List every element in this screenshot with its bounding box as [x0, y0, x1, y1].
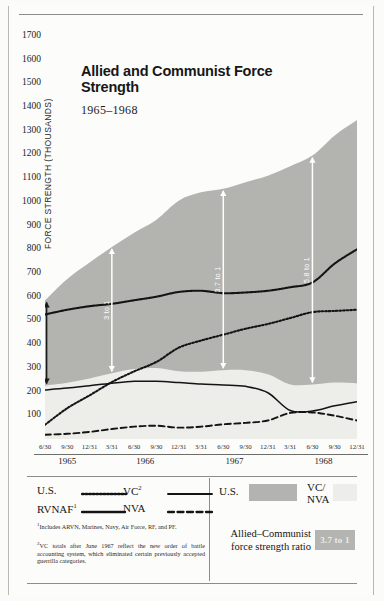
legend-bottom-rule — [27, 583, 357, 584]
y-tick-300: 300 — [11, 362, 41, 372]
key-label-vcnva-2: NVA — [307, 494, 329, 506]
year-label-1967: 1967 — [204, 456, 264, 466]
chart-card: FORCE STRENGTH (THOUSANDS) 1002003004005… — [8, 6, 374, 595]
year-underline-1967 — [190, 454, 279, 455]
year-underline-1966 — [101, 454, 190, 455]
y-tick-800: 800 — [11, 243, 41, 253]
year-label-1966: 1966 — [115, 456, 175, 466]
y-tick-1300: 1300 — [11, 125, 41, 135]
legend-label-us: U.S. — [37, 484, 57, 496]
y-tick-1500: 1500 — [11, 77, 41, 87]
line-legend: U.S.VC2RVNAF1NVA1Includes ARVN, Marines,… — [27, 478, 209, 581]
y-tick-1000: 1000 — [11, 196, 41, 206]
top-rule — [19, 14, 363, 15]
y-tick-700: 700 — [11, 267, 41, 277]
y-tick-1600: 1600 — [11, 54, 41, 64]
key-label-vcnva-1: VC/ — [307, 482, 325, 494]
y-tick-1100: 1100 — [11, 172, 41, 182]
chart-title-block: Allied and Communist Force Strength 1965… — [81, 64, 291, 118]
legend-sample-vc — [167, 485, 217, 497]
key-swatch-us — [249, 484, 297, 501]
y-tick-200: 200 — [11, 386, 41, 396]
ratio-label: 3 to 1 — [103, 300, 110, 319]
ratio-label: 5.8 to 1 — [303, 257, 310, 283]
page-title: Allied and Communist Force Strength — [81, 64, 291, 95]
year-underline-1968 — [279, 454, 368, 455]
y-tick-600: 600 — [11, 291, 41, 301]
footnote-2: 2VC totals after June 1967 reflect the n… — [37, 540, 205, 565]
y-tick-1400: 1400 — [11, 101, 41, 111]
x-tick-14: 12/31 — [344, 443, 370, 450]
legend-label-vc: VC2 — [123, 484, 142, 497]
key-swatch-vcnva — [333, 484, 357, 501]
y-tick-900: 900 — [11, 220, 41, 230]
footnote-1: 1Includes ARVN, Marines, Navy, Air Force… — [37, 521, 205, 531]
y-tick-100: 100 — [11, 409, 41, 419]
area-key: U.S. VC/ NVA Allied–Communist force stre… — [215, 478, 357, 581]
legend-sample-nva — [167, 503, 217, 515]
y-tick-400: 400 — [11, 338, 41, 348]
year-label-1965: 1965 — [37, 456, 97, 466]
legend-label-rvnaf: RVNAF1 — [37, 502, 77, 515]
year-label-1968: 1968 — [294, 456, 354, 466]
chart-subtitle: 1965–1968 — [81, 103, 291, 118]
y-tick-1700: 1700 — [11, 30, 41, 40]
legend-top-rule — [27, 476, 357, 477]
legend-label-nva: NVA — [123, 502, 145, 514]
chart-page: FORCE STRENGTH (THOUSANDS) 1002003004005… — [0, 0, 384, 601]
ratio-label: 3.7 to 1 — [214, 267, 221, 293]
key-label-us: U.S. — [219, 486, 239, 498]
x-axis: 6/309/3012/313/316/309/3012/313/316/309/… — [45, 443, 357, 473]
ratio-caption: Allied–Communist force strength ratio — [219, 528, 311, 553]
y-tick-500: 500 — [11, 314, 41, 324]
year-underline-1965 — [34, 454, 101, 455]
ratio-badge: 3.7 to 1 — [315, 530, 355, 550]
y-tick-1200: 1200 — [11, 148, 41, 158]
